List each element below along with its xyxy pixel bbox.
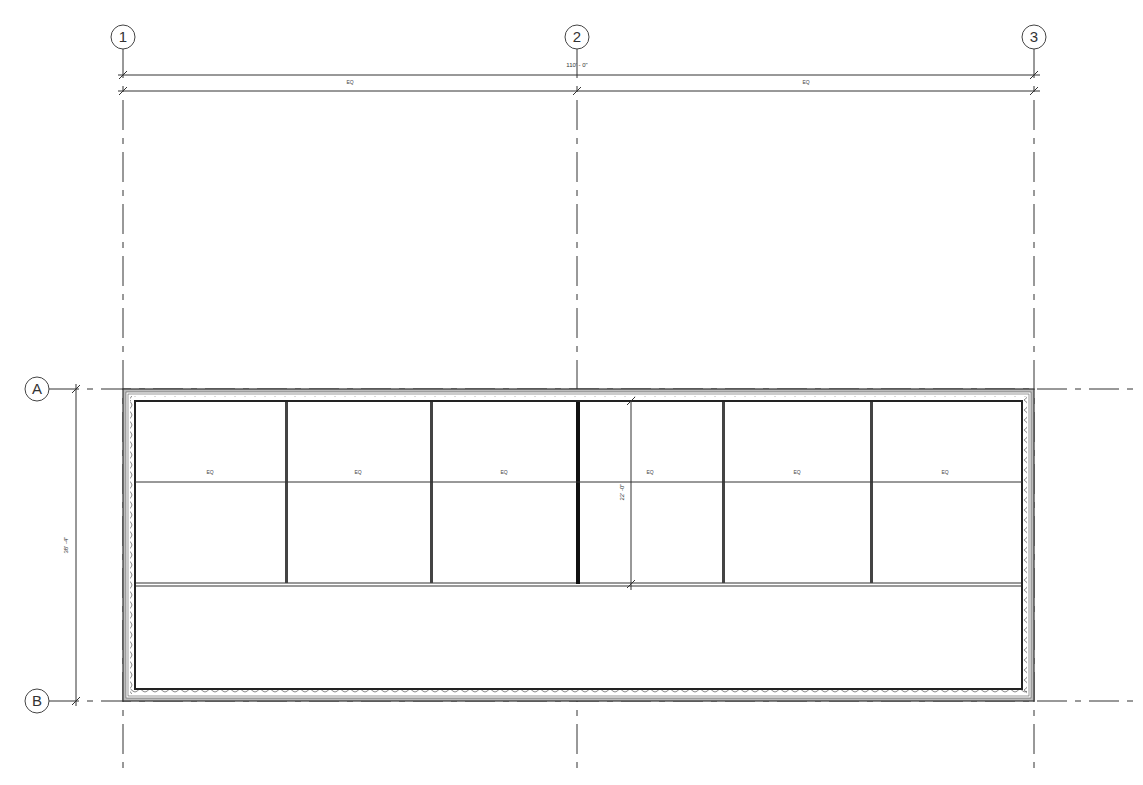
overall-width-label: 110' - 0" <box>566 62 588 68</box>
bay-label-2: EQ <box>354 469 361 475</box>
bay-label-6: EQ <box>941 469 948 475</box>
eq-label-left: EQ <box>346 79 353 85</box>
grid-bubble-1: 1 <box>119 28 127 45</box>
grid-bubble-3: 3 <box>1030 28 1038 45</box>
grid-bubble-b: B <box>32 692 42 709</box>
overall-height-label: 38' -4" <box>63 537 69 554</box>
bay-depth-label: 22' -0" <box>619 484 625 501</box>
bay-label-5: EQ <box>793 469 800 475</box>
bay-label-3: EQ <box>500 469 507 475</box>
floor-plan-drawing: 1 2 3 A B 110' - 0" EQ EQ <box>0 0 1143 785</box>
bay-label-1: EQ <box>206 469 213 475</box>
grid-bubble-2: 2 <box>573 28 581 45</box>
overall-height-dimension: 38' -4" <box>63 384 80 706</box>
overall-width-dimension: 110' - 0" <box>118 62 1040 79</box>
grid-bubble-a: A <box>32 380 42 397</box>
bay-label-4: EQ <box>646 469 653 475</box>
eq-width-dimension: EQ EQ <box>118 79 1040 95</box>
eq-label-right: EQ <box>802 79 809 85</box>
